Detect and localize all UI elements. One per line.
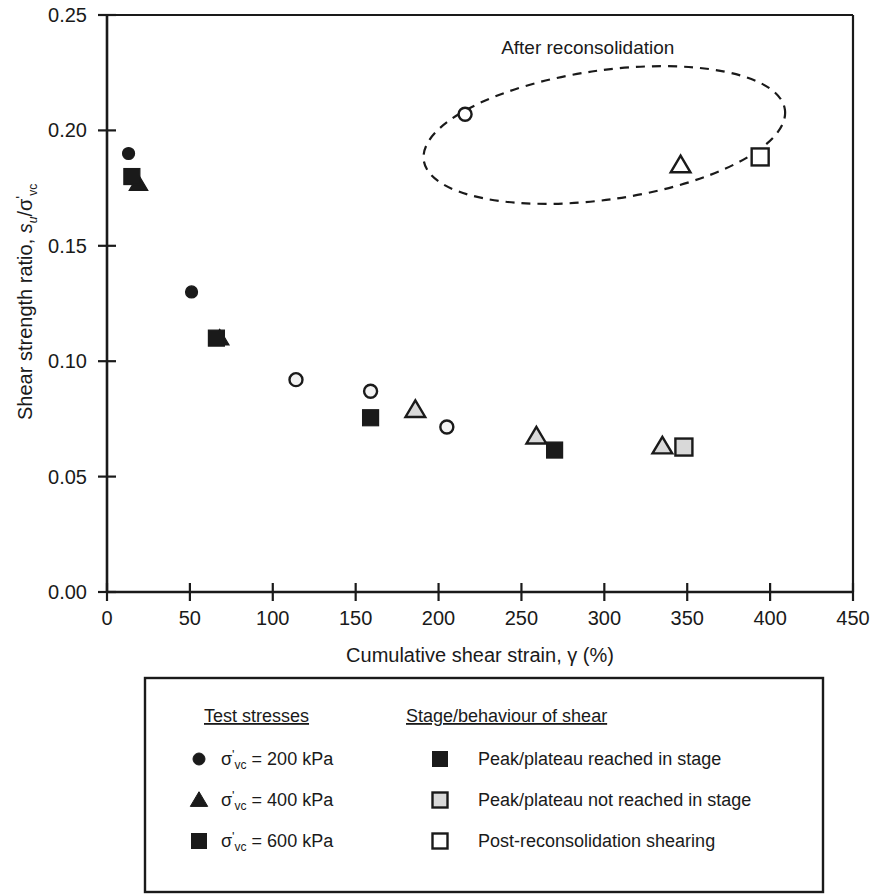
y-tick-label: 0.20 [48,119,87,141]
data-point-square [752,148,769,165]
data-point-circle [459,108,472,121]
scatter-chart-figure: 0.000.050.100.150.200.25 050100150200250… [0,0,870,896]
legend-behaviour-items: Peak/plateau reached in stagePeak/platea… [433,749,752,851]
data-point-square [547,442,563,458]
data-point-markers [123,108,769,458]
legend-heading-stage-behaviour: Stage/behaviour of shear [406,706,607,726]
series-group [671,156,691,173]
x-tick-label: 200 [422,607,455,629]
figure-root: 0.000.050.100.150.200.25 050100150200250… [0,0,870,896]
after-reconsolidation-text: After reconsolidation [501,37,674,58]
data-point-circle [440,420,453,433]
data-point-triangle [671,156,691,173]
data-point-square [124,169,140,185]
y-tick-label: 0.15 [48,235,87,257]
chart-svg: 0.000.050.100.150.200.25 050100150200250… [0,0,870,896]
y-tick-label: 0.10 [48,350,87,372]
legend-item-behaviour[interactable]: Peak/plateau not reached in stage [433,790,752,810]
data-point-square [675,439,692,456]
legend-behaviour-label: Peak/plateau not reached in stage [478,790,751,810]
legend-col1-heading: Test stresses [204,706,309,726]
x-tick-label: 400 [753,607,786,629]
y-axis-tick-labels: 0.000.050.100.150.200.25 [48,4,87,603]
x-tick-label: 0 [101,607,112,629]
data-point-square [363,410,379,426]
x-tick-label: 450 [836,607,869,629]
x-tick-label: 100 [256,607,289,629]
data-point-circle [289,373,302,386]
y-tick-label: 0.00 [48,581,87,603]
legend-behaviour-label: Post-reconsolidation shearing [478,831,715,851]
y-axis-title-s: s [14,223,36,233]
y-tick-label: 0.05 [48,466,87,488]
data-point-square [433,793,448,808]
series-group [129,175,229,345]
legend-col2-heading: Stage/behaviour of shear [406,706,607,726]
x-tick-label: 350 [671,607,704,629]
y-axis-title-sigma: σ [14,198,36,211]
data-point-square [192,834,207,849]
series-group [675,439,692,456]
series-group [752,148,769,165]
series-group [124,169,563,458]
x-axis-tick-labels: 050100150200250300350400450 [101,607,869,629]
y-axis-title-sigma-sub: vc [26,184,40,196]
x-axis-title: Cumulative shear strain, γ (%) [346,644,614,666]
x-tick-label: 250 [505,607,538,629]
y-axis-title: Shear strength ratio, su/σ'vc [12,184,40,420]
legend-heading-test-stresses: Test stresses [204,706,309,726]
x-tick-label: 150 [339,607,372,629]
x-tick-label: 300 [588,607,621,629]
data-point-triangle [652,437,672,454]
plot-frame [107,15,853,592]
after-reconsolidation-label: After reconsolidation [501,37,674,58]
y-tick-label: 0.25 [48,4,87,26]
x-axis-title-text: Cumulative shear strain, γ (%) [346,644,614,666]
after-reconsolidation-ellipse [415,46,794,225]
data-point-square [433,834,448,849]
svg-text:Shear strength ratio, su/σ'vc: Shear strength ratio, su/σ'vc [12,184,40,420]
data-point-triangle [405,400,425,417]
x-tick-label: 50 [179,607,201,629]
data-point-circle [123,147,135,159]
data-point-square [208,330,224,346]
data-point-circle [193,753,205,765]
data-point-triangle [527,427,547,444]
y-axis-title-main: Shear strength ratio, [14,233,36,420]
data-point-circle [364,385,377,398]
legend-behaviour-label: Peak/plateau reached in stage [478,749,721,769]
data-point-square [433,752,448,767]
data-point-circle [186,286,198,298]
series-group [459,108,472,121]
